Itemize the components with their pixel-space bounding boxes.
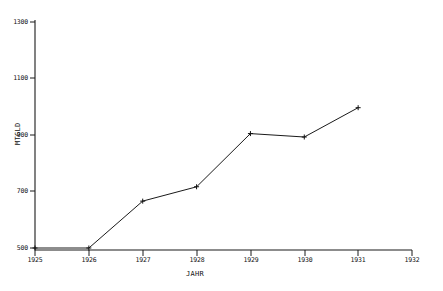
x-tick-label-1930: 1930: [298, 256, 313, 264]
x-tick-label-1925: 1925: [28, 256, 43, 264]
y-tick-label-1300: 1300: [2, 18, 28, 26]
x-tick-label-1932: 1932: [405, 256, 420, 264]
y-tick-label-700: 700: [2, 187, 28, 195]
x-tick-label-1931: 1931: [351, 256, 366, 264]
data-point-markers: [33, 105, 361, 250]
chart-container: 1300 1100 900 700 500 1925 1926 1927 192…: [0, 0, 443, 291]
x-axis-title: JAHR: [186, 270, 204, 278]
y-tick-label-500: 500: [2, 244, 28, 252]
x-tick-label-1928: 1928: [190, 256, 205, 264]
y-axis-ticks: [30, 22, 35, 248]
y-tick-label-1100: 1100: [2, 74, 28, 82]
line-chart-plot: [0, 0, 443, 291]
x-tick-label-1926: 1926: [82, 256, 97, 264]
x-tick-label-1929: 1929: [244, 256, 259, 264]
x-tick-label-1927: 1927: [136, 256, 151, 264]
y-axis-title: MTGLD: [14, 122, 22, 145]
data-series-line: [35, 108, 358, 248]
